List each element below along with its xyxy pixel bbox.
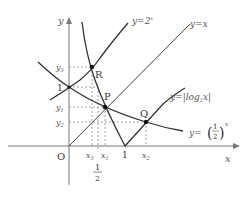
origin-label: O: [57, 151, 65, 162]
point-y-intercept: [67, 85, 70, 88]
y-tick-1: 1: [57, 83, 63, 93]
svg-text:x: x: [225, 120, 229, 127]
svg-text:1: 1: [95, 163, 100, 172]
x-tick-x2: x2: [142, 151, 150, 161]
x-tick-x1: x1: [101, 151, 109, 161]
label-Q: Q: [140, 108, 148, 119]
y-tick-y2: y2: [55, 118, 64, 128]
point-Q: [144, 120, 148, 124]
curve-y-equals-x: [69, 24, 190, 146]
half-fraction-label: 1 2: [93, 163, 102, 183]
y-tick-y3: y3: [55, 63, 64, 73]
curve-abs-log2-x: [82, 22, 185, 146]
svg-text:1: 1: [213, 123, 217, 131]
label-y-abs-log2x: y=|log2x|: [169, 92, 211, 103]
label-y-2x: y=2x: [131, 15, 153, 26]
label-R: R: [95, 69, 103, 80]
svg-text:2: 2: [95, 174, 100, 183]
label-P: P: [104, 91, 111, 102]
svg-text:y=: y=: [188, 128, 202, 138]
svg-text:(: (: [207, 125, 212, 141]
x-tick-x3: x3: [86, 151, 94, 161]
y-axis-label: y: [57, 15, 64, 26]
point-P: [103, 105, 107, 109]
x-tick-1: 1: [122, 150, 128, 160]
label-y-x: y=x: [189, 19, 208, 29]
svg-text:2: 2: [213, 133, 217, 141]
svg-text:): ): [219, 125, 224, 141]
y-tick-y1: y1: [55, 103, 64, 113]
label-y-half-power-x: y= ( 1 2 ) x: [188, 120, 229, 141]
point-R: [90, 65, 94, 69]
function-graph-diagram: y x O R P Q y3 1 y1 y2 x3 x1 1 x2 1 2 y=…: [0, 0, 247, 198]
x-axis-label: x: [225, 153, 231, 164]
